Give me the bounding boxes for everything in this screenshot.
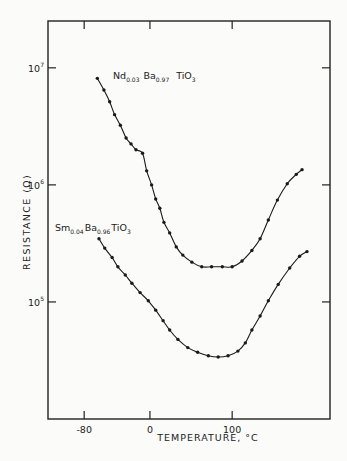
data-point	[250, 328, 253, 331]
data-point	[216, 355, 219, 358]
data-series	[96, 77, 309, 359]
data-point	[196, 351, 199, 354]
data-point	[186, 346, 189, 349]
data-point	[288, 266, 291, 269]
data-point	[267, 218, 270, 221]
data-point	[190, 260, 193, 263]
data-point	[103, 246, 106, 249]
series-line-1	[99, 239, 307, 357]
data-point	[97, 237, 100, 240]
data-point	[147, 299, 150, 302]
series-line-0	[97, 78, 302, 267]
data-point	[162, 221, 165, 224]
data-point	[102, 88, 105, 91]
data-point	[298, 255, 301, 258]
data-point	[258, 237, 261, 240]
data-point	[250, 249, 253, 252]
data-point	[110, 256, 113, 259]
data-point	[124, 273, 127, 276]
data-point	[124, 136, 127, 139]
data-point	[154, 308, 157, 311]
data-point	[276, 198, 279, 201]
data-point	[96, 77, 99, 80]
data-point	[130, 282, 133, 285]
data-point	[267, 299, 270, 302]
data-point	[300, 168, 303, 171]
data-point	[129, 142, 132, 145]
data-point	[138, 291, 141, 294]
data-point	[113, 113, 116, 116]
data-point	[154, 197, 157, 200]
data-point	[119, 123, 122, 126]
data-point	[168, 231, 171, 234]
data-point	[200, 265, 203, 268]
data-point	[236, 349, 239, 352]
data-point	[221, 265, 224, 268]
x-tick-label: 0	[147, 424, 153, 435]
series-label-sm: Sm0.04Ba0.96TiO3	[55, 222, 131, 235]
data-point	[277, 283, 280, 286]
data-point	[145, 169, 148, 172]
data-point	[181, 253, 184, 256]
data-point	[244, 341, 247, 344]
data-point	[207, 354, 210, 357]
data-point	[258, 314, 261, 317]
x-axis-label: TEMPERATURE, °C	[156, 432, 259, 443]
data-point	[176, 338, 179, 341]
data-point	[240, 259, 243, 262]
data-point	[295, 173, 298, 176]
data-point	[108, 100, 111, 103]
data-point	[158, 207, 161, 210]
data-point	[175, 245, 178, 248]
y-axis-ticks: 107106105	[28, 61, 330, 308]
series-label-nd: Nd0.03Ba0.97TiO3	[113, 70, 196, 83]
data-point	[116, 265, 119, 268]
y-tick-label: 107	[28, 61, 44, 74]
data-point	[286, 182, 289, 185]
y-axis-label: RESISTANCE (Ω)	[21, 174, 32, 270]
resistance-temperature-chart: -800100 107106105 TEMPERATURE, °C RESIST…	[0, 0, 347, 461]
data-point	[150, 183, 153, 186]
data-point	[161, 319, 164, 322]
y-tick-label: 105	[28, 295, 44, 308]
data-point	[305, 250, 308, 253]
data-point	[168, 328, 171, 331]
data-point	[134, 148, 137, 151]
data-point	[226, 354, 229, 357]
data-point	[210, 265, 213, 268]
data-point	[230, 265, 233, 268]
data-point	[141, 152, 144, 155]
x-tick-label: -80	[76, 424, 92, 435]
